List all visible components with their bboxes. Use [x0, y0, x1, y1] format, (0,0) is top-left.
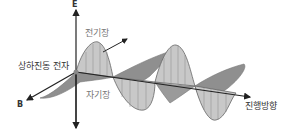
- propagation-direction-label: 진행방향: [245, 102, 277, 111]
- e-axis-label: E: [72, 1, 77, 9]
- em-wave-diagram: E B 전기장 상하진동 전자 자기장 진행방향: [0, 0, 293, 138]
- magnetic-field-label: 자기장: [86, 91, 110, 100]
- electric-field-label: 전기장: [85, 29, 109, 38]
- electron-dot: [74, 70, 79, 75]
- b-axis-label: B: [17, 101, 23, 109]
- electric-field-pointer: [103, 39, 127, 52]
- oscillating-electron-label: 상하진동 전자: [18, 62, 69, 71]
